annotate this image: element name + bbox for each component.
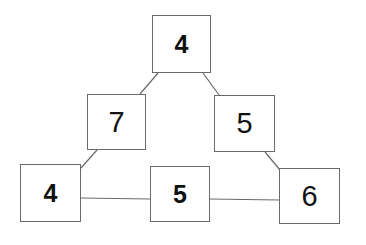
- node-bottom-left: 4: [20, 164, 81, 222]
- node-mid-left: 7: [87, 94, 146, 150]
- node-top: 4: [152, 15, 211, 73]
- edge-top-to-mid-right: [203, 73, 219, 95]
- edge-top-to-mid-left: [140, 73, 158, 94]
- edge-bottom-middle-to-bottom-right: [210, 199, 279, 200]
- edge-bottom-left-to-bottom-middle: [81, 198, 150, 199]
- node-bottom-middle: 5: [150, 166, 210, 222]
- node-bottom-right: 6: [279, 168, 340, 224]
- edge-mid-right-to-bottom-right: [265, 152, 280, 170]
- node-mid-right: 5: [214, 95, 275, 152]
- edge-mid-left-to-bottom-left: [81, 150, 97, 168]
